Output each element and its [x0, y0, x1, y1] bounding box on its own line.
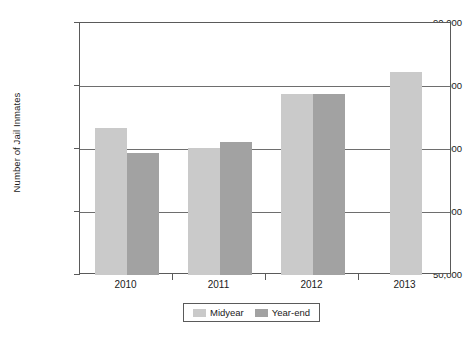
bar-2010-year-end	[127, 153, 159, 275]
chart-legend: MidyearYear-end	[183, 303, 320, 322]
bar-2013-midyear	[390, 72, 422, 275]
bar-2012-year-end	[313, 94, 345, 275]
bar-2011-midyear	[188, 148, 220, 275]
chart-title	[0, 0, 467, 1]
legend-item-year-end[interactable]: Year-end	[255, 307, 310, 318]
y-tick-mark	[74, 274, 80, 275]
x-tick-mark	[265, 274, 266, 280]
legend-swatch-icon	[193, 309, 206, 317]
x-tick-label-2010: 2010	[91, 279, 161, 290]
x-tick-mark	[172, 274, 173, 280]
y-axis-title: Number of Jail Inmates	[6, 0, 28, 285]
bar-2011-year-end	[220, 142, 252, 275]
legend-swatch-icon	[255, 309, 268, 317]
bar-2010-midyear	[95, 128, 127, 275]
legend-label: Year-end	[272, 307, 310, 318]
legend-label: Midyear	[210, 307, 244, 318]
x-tick-label-2011: 2011	[184, 279, 254, 290]
bar-2012-midyear	[281, 94, 313, 275]
plot-area	[79, 22, 451, 274]
x-tick-label-2012: 2012	[277, 279, 347, 290]
y-axis-title-text: Number of Jail Inmates	[12, 93, 23, 193]
x-tick-label-2013: 2013	[370, 279, 440, 290]
x-tick-mark	[358, 274, 359, 280]
legend-item-midyear[interactable]: Midyear	[193, 307, 244, 318]
